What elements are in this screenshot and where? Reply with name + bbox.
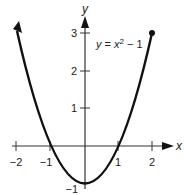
parabola-chart: −2 −1 1 2 x 1 2 3 −1 y y = x2 − 1 [0,0,184,195]
equation-label: y = x2 − 1 [95,37,143,50]
y-tick-label: 1 [71,102,77,114]
x-axis-arrow-icon [162,142,174,150]
y-axis-label: y [81,2,89,16]
endpoint-dot [149,30,155,36]
x-axis: −2 −1 1 2 x [10,139,183,168]
x-tick-label: 1 [115,156,121,168]
y-min-label: −1 [65,183,78,195]
x-axis-label: x [175,139,183,153]
x-tick-label: −1 [40,156,53,168]
y-tick-label: 3 [71,27,77,39]
y-axis-arrow-icon [81,16,89,28]
y-tick-label: 2 [71,65,77,77]
x-tick-label: −2 [10,156,23,168]
y-axis: 1 2 3 −1 y [65,2,90,195]
x-tick-label: 2 [149,156,155,168]
